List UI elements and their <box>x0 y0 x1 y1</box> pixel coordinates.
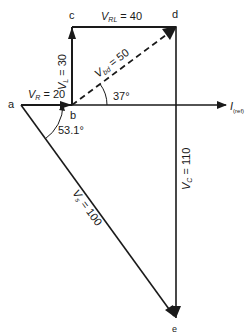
point-label-d: d <box>172 8 178 20</box>
label-vc: VC= 110 <box>180 148 193 190</box>
label-vl: VL= 30 <box>56 54 69 90</box>
vl-arrowhead <box>68 27 76 39</box>
reference-axis-label: I(ref) <box>230 100 244 114</box>
label-vrl: VRL= 40 <box>101 10 142 23</box>
label-vs: Vs= 100 <box>70 187 105 228</box>
angle-label-37: 37° <box>113 90 130 102</box>
point-label-e: e <box>172 324 177 334</box>
point-label-c: c <box>69 9 75 21</box>
vbd-arrowhead <box>162 26 177 40</box>
point-label-a: a <box>8 98 15 110</box>
phasor-diagram: a b c d e VR= 20 VL= 30 VRL= 40 Vbd= 50 … <box>0 0 251 336</box>
point-label-b: b <box>70 109 76 121</box>
angle-arc-37 <box>100 84 107 105</box>
label-vbd: Vbd= 50 <box>92 46 132 80</box>
angle-label-53: 53.1° <box>58 124 84 136</box>
